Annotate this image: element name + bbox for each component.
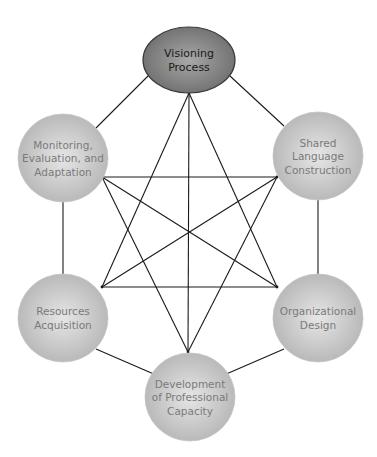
node-label-line: Construction bbox=[285, 164, 352, 176]
node-label-line: Resources bbox=[36, 305, 90, 317]
node-label-line: Monitoring, bbox=[33, 139, 93, 151]
node-label-line: Adaptation bbox=[34, 166, 91, 178]
connection-shared-language-professional-capacity bbox=[188, 177, 277, 352]
connection-monitoring-professional-capacity bbox=[102, 177, 188, 352]
node-monitoring[interactable]: Monitoring,Evaluation, andAdaptation bbox=[18, 114, 108, 202]
node-shared-language[interactable]: SharedLanguageConstruction bbox=[273, 112, 363, 200]
node-label-line: Organizational bbox=[280, 305, 356, 317]
node-label-line: Language bbox=[292, 150, 344, 162]
node-label-line: Design bbox=[300, 319, 336, 331]
outer-edge bbox=[230, 76, 284, 126]
node-resources[interactable]: ResourcesAcquisition bbox=[18, 274, 108, 362]
anchor-dot-resources bbox=[101, 286, 104, 289]
node-label-line: Capacity bbox=[167, 405, 213, 417]
node-organizational[interactable]: OrganizationalDesign bbox=[273, 274, 363, 362]
node-label-line: Evaluation, and bbox=[22, 152, 104, 164]
node-label-line: Shared bbox=[300, 137, 337, 149]
anchor-dot-organizational bbox=[276, 286, 279, 289]
connection-visioning-resources bbox=[102, 93, 189, 287]
outer-edge bbox=[224, 349, 284, 375]
node-label-line: Acquisition bbox=[34, 319, 92, 331]
connection-visioning-organizational bbox=[189, 93, 277, 287]
nodes-layer: VisioningProcessMonitoring,Evaluation, a… bbox=[18, 27, 363, 441]
connection-visioning-professional-capacity bbox=[188, 93, 189, 352]
node-label-line: Visioning bbox=[164, 47, 214, 60]
diagram-canvas: VisioningProcessMonitoring,Evaluation, a… bbox=[0, 0, 377, 457]
node-label-line: Process bbox=[168, 61, 210, 74]
outer-edge bbox=[96, 76, 148, 128]
node-visioning[interactable]: VisioningProcess bbox=[143, 27, 235, 93]
outer-edge bbox=[96, 349, 156, 375]
node-professional-capacity[interactable]: Developmentof ProfessionalCapacity bbox=[145, 353, 235, 441]
node-label-line: Development bbox=[155, 378, 226, 390]
node-label-line: of Professional bbox=[152, 391, 229, 403]
